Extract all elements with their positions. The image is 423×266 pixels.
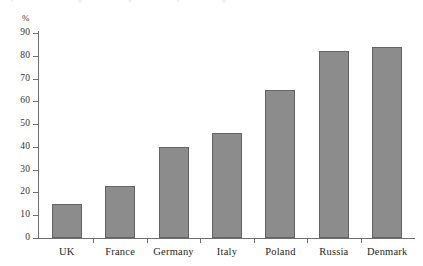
y-axis-tick-label: 40 (20, 141, 30, 152)
y-axis-tick-label: 0 (25, 232, 30, 243)
bar (159, 147, 189, 238)
x-axis-category-label: France (93, 245, 146, 258)
y-axis-tick-label: 80 (20, 50, 30, 61)
x-axis-category-label: Russia (307, 245, 360, 258)
x-axis-tick (93, 239, 94, 243)
y-axis-tick: 20 (33, 192, 38, 193)
bar-chart: % 0102030405060708090 UKFranceGermanyIta… (0, 0, 423, 266)
x-axis-tick (200, 239, 201, 243)
y-axis-tick-label: 50 (20, 118, 30, 129)
y-axis-tick: 80 (33, 56, 38, 57)
y-axis-tick: 10 (33, 215, 38, 216)
bar (52, 204, 82, 238)
x-axis-category-label: Italy (200, 245, 253, 258)
y-axis-tick: 0 (33, 238, 38, 239)
bar (105, 186, 135, 238)
x-axis-category-label: Poland (254, 245, 307, 258)
bar (265, 90, 295, 238)
y-axis-tick: 70 (33, 79, 38, 80)
bar (319, 51, 349, 238)
y-axis-tick: 90 (33, 33, 38, 34)
y-axis-tick: 50 (33, 124, 38, 125)
y-axis-unit-label: % (22, 13, 30, 23)
x-axis-tick (307, 239, 308, 243)
x-axis-category-label: UK (40, 245, 93, 258)
y-axis-tick-label: 30 (20, 164, 30, 175)
x-axis-tick (254, 239, 255, 243)
x-axis-tick (361, 239, 362, 243)
y-axis-tick-label: 20 (20, 186, 30, 197)
x-axis-tick (147, 239, 148, 243)
y-axis-tick: 60 (33, 101, 38, 102)
y-axis-tick-label: 90 (20, 27, 30, 38)
bar (372, 47, 402, 238)
y-axis-tick-label: 60 (20, 95, 30, 106)
y-axis-tick-label: 70 (20, 73, 30, 84)
y-axis-tick: 30 (33, 170, 38, 171)
x-axis-line (38, 238, 415, 239)
y-axis-tick-label: 10 (20, 209, 30, 220)
x-axis-category-label: Germany (147, 245, 200, 258)
plot-area (38, 33, 413, 238)
bar (212, 133, 242, 238)
x-axis-category-label: Denmark (361, 245, 414, 258)
y-axis-tick: 40 (33, 147, 38, 148)
